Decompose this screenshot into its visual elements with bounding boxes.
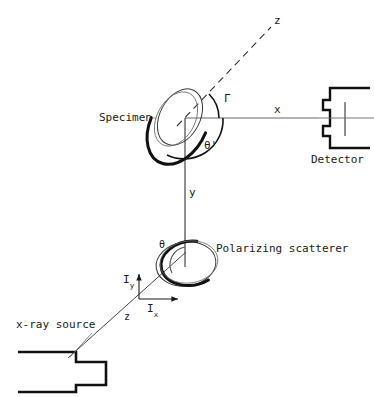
angle-theta-prime-label: θ' [204,140,217,151]
angle-gamma-arc [209,94,219,118]
beam-z-line [68,252,186,358]
intensity-y-label: Iy [123,274,134,288]
specimen-outline-inner [146,84,207,153]
intensity-x-label: Ix [147,303,158,317]
xray-source-label: x-ray source [16,319,95,330]
diagram-canvas: Specimen Detector Polarizing scatterer x… [0,0,374,397]
angle-theta-label: θ [159,240,165,250]
axis-z-beam-label: z [124,312,130,322]
intensity-y-subscript: y [130,281,135,290]
intensity-x-symbol: I [147,302,154,315]
axis-y-label: y [189,187,196,198]
intensity-y-symbol: I [123,273,130,286]
angle-gamma-label: Γ [224,93,231,104]
specimen-label: Specimen [99,112,152,123]
axis-z-top-label: z [274,15,281,26]
source-leader-line [70,333,92,357]
axis-x-label: x [274,104,281,115]
axis-z-dashed-line [177,27,271,126]
intensity-x-subscript: x [154,310,159,319]
polarizing-scatterer-label: Polarizing scatterer [216,243,348,254]
schematic-svg [0,0,374,397]
detector-label: Detector [311,154,364,165]
xray-tube-icon [18,352,106,392]
